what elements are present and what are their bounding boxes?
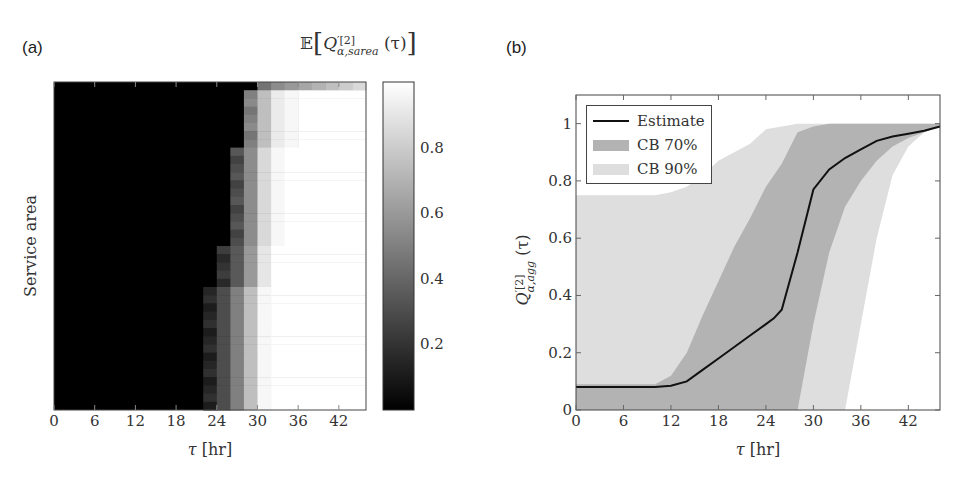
legend-item-estimate: Estimate <box>593 109 705 133</box>
ylabel-q-sub: α,agg <box>525 261 536 293</box>
legend-label: Estimate <box>637 112 705 130</box>
line-chart-x-tick-label: 42 <box>899 412 918 430</box>
line-chart-x-tick-label: 12 <box>661 412 680 430</box>
line-chart-y-tick-label: 0.4 <box>548 286 572 304</box>
line-chart-x-tick-label: 36 <box>851 412 870 430</box>
line-chart-x-tick-label: 0 <box>571 412 581 430</box>
line-chart-xlabel: τ [hr] <box>736 440 780 459</box>
line-chart-x-tick-label: 18 <box>709 412 728 430</box>
legend-label: CB 90% <box>637 160 698 178</box>
line-chart-y-tick-label: 0 <box>562 401 572 419</box>
line-chart-x-tick-label: 6 <box>619 412 629 430</box>
legend-label: CB 70% <box>637 136 698 154</box>
ylabel-q-symbol: Q <box>513 292 532 305</box>
legend: Estimate CB 70% CB 90% <box>586 105 712 184</box>
line-chart-x-tick-label: 24 <box>756 412 775 430</box>
legend-area-swatch <box>593 164 629 175</box>
line-chart-y-tick-label: 1 <box>562 115 572 133</box>
legend-line-swatch <box>593 120 629 122</box>
legend-item-cb90: CB 90% <box>593 157 705 181</box>
legend-area-swatch <box>593 140 629 151</box>
ylabel-q-arg: (τ) <box>513 234 532 255</box>
line-chart-x-tick-label: 30 <box>804 412 823 430</box>
line-chart-y-tick-label: 0.2 <box>548 344 572 362</box>
legend-item-cb70: CB 70% <box>593 133 705 157</box>
line-chart-ylabel: Q′[2]α,agg (τ) <box>513 234 536 305</box>
line-chart-y-tick-label: 0.6 <box>548 229 572 247</box>
line-chart-y-tick-label: 0.8 <box>548 172 572 190</box>
